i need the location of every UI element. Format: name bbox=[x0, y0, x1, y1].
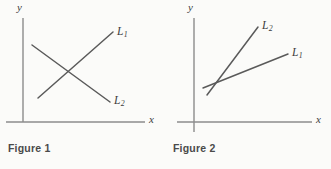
figure-2-label-l2-base: L bbox=[262, 19, 268, 31]
figure-2-label-l2-subscript: 2 bbox=[269, 24, 273, 33]
figure-2: y x L2 L1 Figure 2 bbox=[165, 0, 331, 169]
figure-1-label-l1-subscript: 1 bbox=[124, 30, 128, 39]
figure-1-label-l1-base: L bbox=[117, 25, 123, 37]
figure-2-label-l1-base: L bbox=[292, 46, 298, 58]
figure-2-y-axis-label: y bbox=[188, 2, 193, 13]
figure-1-label-l1: L1 bbox=[117, 26, 128, 39]
figure-1-y-axis-label: y bbox=[17, 2, 22, 13]
figure-2-label-l2: L2 bbox=[262, 20, 273, 33]
figure-1-label-l2: L2 bbox=[114, 95, 125, 108]
figure-2-x-axis-label: x bbox=[316, 114, 321, 125]
figure-1-caption: Figure 1 bbox=[8, 142, 50, 154]
figure-1-label-l2-subscript: 2 bbox=[121, 99, 125, 108]
figure-2-caption: Figure 2 bbox=[173, 142, 215, 154]
figure-pair-illustration: y x L1 L2 Figure 1 y x L2 L1 Fi bbox=[0, 0, 331, 169]
figure-2-label-l1-subscript: 1 bbox=[299, 51, 303, 60]
figure-1: y x L1 L2 Figure 1 bbox=[0, 0, 166, 169]
figure-2-line-l2 bbox=[207, 27, 258, 95]
figure-2-line-l1 bbox=[203, 54, 288, 88]
figure-2-label-l1: L1 bbox=[292, 47, 303, 60]
figure-1-label-l2-base: L bbox=[114, 94, 120, 106]
figure-1-x-axis-label: x bbox=[149, 114, 154, 125]
figure-1-line-l1 bbox=[38, 32, 113, 98]
